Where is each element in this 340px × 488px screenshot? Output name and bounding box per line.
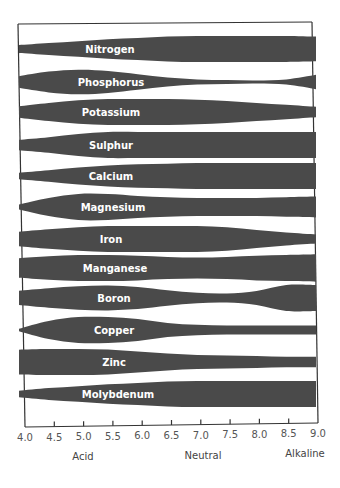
band-molybdenum xyxy=(19,381,316,407)
band-nitrogen xyxy=(19,36,316,62)
zone-label-neutral: Neutral xyxy=(185,450,222,461)
x-axis-ticks: 4.04.55.05.56.06.57.07.58.08.59.0 xyxy=(17,418,326,443)
nutrient-bands xyxy=(19,36,316,407)
band-boron xyxy=(19,285,316,312)
band-label-zinc: Zinc xyxy=(102,357,126,368)
zone-label-alkaline: Alkaline xyxy=(285,448,324,459)
band-magnesium xyxy=(19,194,316,221)
band-sulphur xyxy=(19,132,316,158)
band-potassium xyxy=(19,99,316,125)
x-tick-label: 5.5 xyxy=(105,431,121,442)
band-label-copper: Copper xyxy=(94,325,134,336)
band-label-calcium: Calcium xyxy=(89,171,133,182)
band-label-boron: Boron xyxy=(97,293,130,304)
band-copper xyxy=(19,317,316,344)
band-label-manganese: Manganese xyxy=(83,263,148,274)
band-label-sulphur: Sulphur xyxy=(89,140,133,151)
band-label-molybdenum: Molybdenum xyxy=(82,389,155,400)
band-manganese xyxy=(19,254,316,281)
nutrient-availability-chart: Nitrogen Phosphorus Potassium Sulphur Ca… xyxy=(0,0,340,488)
x-tick-label: 7.0 xyxy=(193,430,209,441)
band-phosphorus xyxy=(19,70,316,95)
band-label-magnesium: Magnesium xyxy=(81,202,146,213)
x-tick-label: 6.0 xyxy=(134,430,150,441)
band-calcium xyxy=(19,163,316,189)
x-tick-label: 7.5 xyxy=(222,429,238,440)
x-tick-label: 4.0 xyxy=(17,432,33,443)
x-tick-label: 8.0 xyxy=(251,429,267,440)
zone-labels: Acid Neutral Alkaline xyxy=(72,448,324,462)
band-iron xyxy=(19,226,316,252)
band-labels: Nitrogen Phosphorus Potassium Sulphur Ca… xyxy=(78,44,154,400)
x-tick-label: 5.0 xyxy=(76,431,92,442)
band-zinc xyxy=(19,349,316,375)
x-tick-label: 4.5 xyxy=(46,432,62,443)
x-tick-label: 9.0 xyxy=(310,428,326,439)
band-label-iron: Iron xyxy=(100,234,123,245)
x-tick-label: 6.5 xyxy=(164,430,180,441)
zone-label-acid: Acid xyxy=(72,451,93,462)
band-label-phosphorus: Phosphorus xyxy=(78,77,144,88)
x-tick-label: 8.5 xyxy=(281,428,297,439)
band-label-potassium: Potassium xyxy=(82,107,141,118)
band-label-nitrogen: Nitrogen xyxy=(85,44,134,55)
